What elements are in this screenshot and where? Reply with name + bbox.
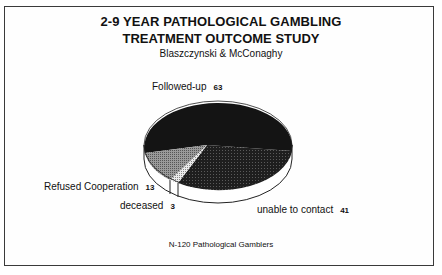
label-refused-cooperation: Refused Cooperation13 xyxy=(44,181,154,192)
chart-footnote: N-120 Pathological Gamblers xyxy=(0,240,442,249)
label-followed-up: Followed-up63 xyxy=(152,81,222,92)
pie-chart xyxy=(0,0,442,275)
label-deceased: deceased3 xyxy=(120,200,175,211)
slice-followed-up xyxy=(144,103,292,153)
label-unable-to-contact: unable to contact41 xyxy=(257,204,349,215)
